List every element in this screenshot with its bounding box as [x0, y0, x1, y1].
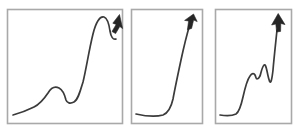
panel-2: [132, 10, 203, 124]
trend-figure: growth curve with dip and rebound flat t…: [0, 0, 303, 131]
panel-1: [8, 10, 123, 124]
panel-3: [216, 10, 292, 124]
panel-1-frame: [8, 10, 123, 124]
three-panel-trend-chart: [0, 0, 303, 131]
